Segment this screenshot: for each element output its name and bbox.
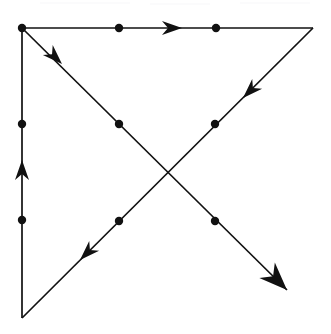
vertex-dot-anti-diag-2 [115,217,123,225]
scan-noise-1 [150,3,210,5]
diagram-canvas [0,0,331,334]
scan-noise-0 [40,2,130,4]
vertex-dot-top-mid-right [212,24,220,32]
vertex-dot-top-mid-left [115,24,123,32]
vertex-dot-left-mid-low [18,216,26,224]
scan-noise-2 [240,2,310,4]
vertex-dot-main-diag-2 [211,217,219,225]
vertex-dot-anti-diag-1 [211,120,219,128]
vertex-dot-main-diag-1 [115,120,123,128]
graph-diagram [0,0,331,334]
vertex-dot-left-mid-up [18,120,26,128]
vertex-dot-top-left [18,24,26,32]
